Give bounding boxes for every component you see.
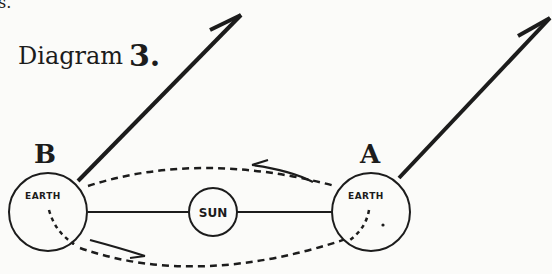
sun: SUN (189, 188, 237, 236)
diagram-title: Diagram (18, 42, 123, 70)
diagram-svg: s. Diagram 3. EARTH B (0, 0, 552, 274)
diagram-number: 3. (129, 38, 160, 73)
diagram-canvas: s. Diagram 3. EARTH B (0, 0, 552, 274)
position-b-label: B (34, 139, 56, 169)
velocity-arrow-a (399, 18, 550, 178)
orbit-direction-arrow-bottom (90, 240, 145, 258)
earth-a-label: EARTH (348, 191, 384, 201)
orbit-direction-arrow-top (252, 160, 313, 182)
position-a-label: A (359, 139, 381, 169)
earth-a: EARTH (332, 173, 410, 251)
earth-b-label: EARTH (25, 191, 61, 201)
earth-b: EARTH (9, 173, 87, 251)
sun-label: SUN (199, 206, 227, 220)
top-left-fragment: s. (0, 0, 11, 12)
